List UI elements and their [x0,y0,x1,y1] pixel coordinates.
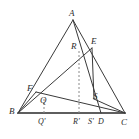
cevian-fc [36,92,125,113]
point-label-qp: Q' [38,118,46,126]
point-label-rp: R' [73,118,80,126]
point-label-r: R [71,42,77,51]
point-label-b: B [9,107,15,116]
point-label-sp: S' [88,118,94,126]
geometry-figure: ABCERFQSQ'R'S'D [0,0,139,139]
segment-bf [18,92,36,113]
point-label-q: Q [40,96,47,105]
point-label-f: F [27,84,33,93]
point-label-c: C [121,118,127,127]
point-label-e: E [91,37,97,46]
cevian-be [18,48,92,113]
point-label-s: S [93,92,98,101]
point-label-a: A [69,9,75,18]
point-label-d: D [98,118,104,126]
solid-lines-group [18,20,125,113]
side-ac [73,20,125,113]
figure-canvas [0,0,139,139]
